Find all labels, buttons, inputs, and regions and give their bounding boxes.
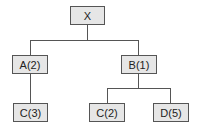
node-d5: D(5) bbox=[153, 103, 189, 122]
edge-to-a bbox=[30, 40, 31, 55]
edge-a-to-c3 bbox=[30, 73, 31, 103]
edge-x-horizontal bbox=[30, 40, 139, 41]
node-label: A(2) bbox=[20, 59, 41, 71]
edge-to-d5 bbox=[170, 88, 171, 103]
node-label: C(3) bbox=[20, 107, 41, 119]
node-label: B(1) bbox=[129, 59, 150, 71]
node-c3: C(3) bbox=[13, 103, 48, 122]
node-a: A(2) bbox=[12, 55, 48, 74]
edge-to-c2 bbox=[107, 88, 108, 103]
node-c2: C(2) bbox=[89, 103, 125, 122]
node-x: X bbox=[70, 6, 105, 25]
edge-b-horizontal bbox=[107, 88, 171, 89]
node-b: B(1) bbox=[121, 55, 157, 74]
edge-to-b bbox=[138, 40, 139, 55]
node-label: C(2) bbox=[96, 107, 117, 119]
edge-b-down bbox=[138, 73, 139, 88]
node-label: D(5) bbox=[160, 107, 181, 119]
node-label: X bbox=[84, 10, 91, 22]
edge-x-down bbox=[87, 25, 88, 40]
